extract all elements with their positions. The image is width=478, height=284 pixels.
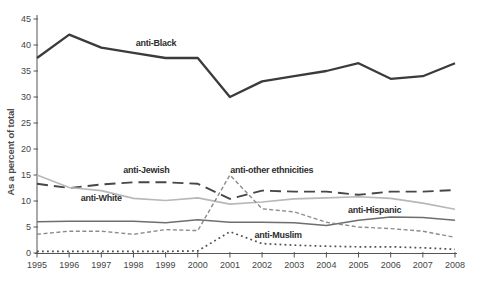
- x-tick-label: 2005: [349, 260, 369, 270]
- x-tick-label: 1997: [91, 260, 111, 270]
- y-tick-label: 15: [21, 170, 31, 180]
- series-line-anti-hispanic: [37, 217, 455, 225]
- hate-crime-percent-line-chart: As a percent of total 051015202530354045…: [0, 0, 478, 284]
- x-tick-label: 2003: [284, 260, 304, 270]
- y-tick-label: 40: [21, 40, 31, 50]
- y-tick-label: 45: [21, 14, 31, 24]
- x-tick-label: 2006: [381, 260, 401, 270]
- series-line-anti-black: [37, 35, 455, 97]
- series-line-anti-muslim: [37, 232, 455, 252]
- x-tick-label: 2000: [188, 260, 208, 270]
- series-label-anti-white: anti-White: [81, 193, 122, 203]
- x-tick-label: 2004: [316, 260, 336, 270]
- chart-canvas: 0510152025303540451995199619971998199920…: [0, 0, 478, 284]
- y-tick-label: 25: [21, 118, 31, 128]
- x-tick-label: 1998: [123, 260, 143, 270]
- x-tick-label: 1995: [27, 260, 47, 270]
- y-axis-title: As a percent of total: [5, 97, 17, 207]
- x-tick-label: 1996: [59, 260, 79, 270]
- y-tick-label: 0: [26, 248, 31, 258]
- series-label-anti-hispanic: anti-Hispanic: [348, 205, 402, 215]
- x-tick-label: 1999: [156, 260, 176, 270]
- series-label-anti-muslim: anti-Muslim: [255, 230, 302, 240]
- y-tick-label: 5: [26, 222, 31, 232]
- x-tick-label: 2001: [220, 260, 240, 270]
- x-tick-label: 2002: [252, 260, 272, 270]
- y-tick-label: 10: [21, 196, 31, 206]
- x-tick-label: 2007: [413, 260, 433, 270]
- y-tick-label: 30: [21, 92, 31, 102]
- y-tick-label: 35: [21, 66, 31, 76]
- series-label-anti-jewish: anti-Jewish: [123, 165, 169, 175]
- y-tick-label: 20: [21, 144, 31, 154]
- series-label-anti-other-ethnicities: anti-other ethnicities: [230, 165, 313, 175]
- series-label-anti-black: anti-Black: [136, 38, 178, 48]
- x-tick-label: 2008: [445, 260, 465, 270]
